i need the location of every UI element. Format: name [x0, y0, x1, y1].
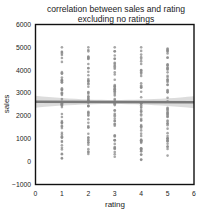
x-tick-label: 5	[166, 190, 170, 197]
scatter-chart: correlation between sales and rating exc…	[0, 0, 198, 212]
x-tick-label: 6	[192, 190, 196, 197]
y-axis-label: sales	[2, 95, 11, 114]
chart-title-line-1: correlation between sales and rating	[47, 4, 185, 14]
y-tick-label: 1000	[16, 135, 31, 142]
y-tick-label: −1000	[12, 181, 31, 188]
y-tick-label: 3000	[16, 89, 31, 96]
y-tick-label: 5000	[16, 44, 31, 51]
x-tick-label: 4	[139, 190, 143, 197]
y-tick-label: 6000	[16, 21, 31, 28]
points-rating-4	[140, 46, 143, 161]
y-tick-label: 2000	[16, 112, 31, 119]
x-tick-label: 2	[86, 190, 90, 197]
y-axis-ticks: −10000100020003000400050006000	[12, 21, 31, 188]
y-tick-label: 4000	[16, 67, 31, 74]
chart-title-line-2: excluding no ratings	[78, 14, 154, 24]
x-axis-ticks: 0123456	[34, 190, 197, 197]
x-tick-label: 3	[113, 190, 117, 197]
x-axis-label: rating	[105, 200, 125, 209]
plot-area	[36, 46, 195, 161]
y-tick-label: 0	[27, 158, 31, 165]
x-tick-label: 1	[60, 190, 64, 197]
x-tick-label: 0	[34, 190, 38, 197]
